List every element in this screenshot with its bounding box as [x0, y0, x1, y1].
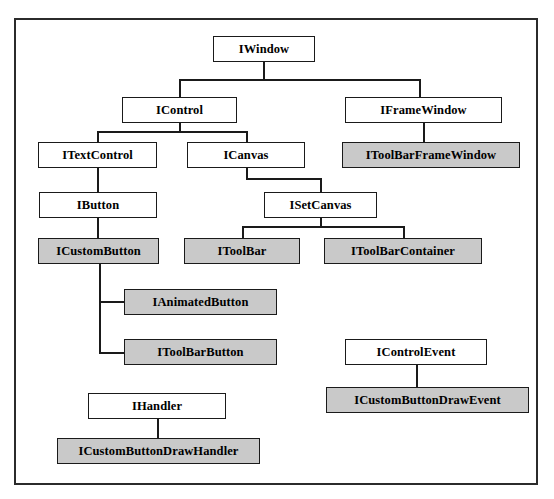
node-icontrol[interactable]: IControl	[122, 97, 237, 123]
connector-itextcontrol-drop	[97, 131, 99, 142]
node-icontrolevent[interactable]: IControlEvent	[345, 339, 487, 365]
connector-itoolbarbutton-stub	[99, 352, 124, 354]
connector-icanvas-stem	[246, 168, 248, 178]
connector-icontrol-drop	[179, 79, 181, 97]
node-itoolbarframewindow[interactable]: IToolBarFrameWindow	[342, 142, 520, 168]
connector-icontrolevent-stem	[416, 365, 418, 387]
connector-itoolbar-drop	[242, 226, 244, 238]
node-icustombuttondrawevent[interactable]: ICustomButtonDrawEvent	[326, 387, 529, 413]
connector-iframewindow-drop	[419, 79, 421, 97]
connector-icontrol-bus	[97, 131, 246, 133]
node-ibutton[interactable]: IButton	[39, 192, 157, 218]
connector-iwindow-bus	[179, 79, 419, 81]
connector-ianimated-stub	[99, 301, 124, 303]
node-iframewindow[interactable]: IFrameWindow	[345, 97, 502, 123]
connector-isetcanvas-bus	[242, 226, 403, 228]
node-iwindow[interactable]: IWindow	[213, 36, 315, 62]
connector-icontrol-stem	[179, 123, 181, 131]
connector-iframewindow-stem	[423, 123, 425, 142]
node-ihandler[interactable]: IHandler	[88, 393, 226, 419]
connector-icanvas-drop	[246, 131, 248, 142]
connector-iwindow-stem	[263, 62, 265, 79]
node-icustombutton[interactable]: ICustomButton	[38, 238, 159, 264]
node-icanvas[interactable]: ICanvas	[187, 142, 305, 168]
node-itoolbarbutton[interactable]: IToolBarButton	[124, 339, 277, 365]
node-itoolbar[interactable]: IToolBar	[184, 238, 300, 264]
node-ianimatedbutton[interactable]: IAnimatedButton	[124, 289, 277, 315]
connector-itextcontrol-stem	[97, 168, 99, 192]
node-icustombuttondrawhandler[interactable]: ICustomButtonDrawHandler	[57, 438, 260, 464]
connector-itoolbarcont-drop	[403, 226, 405, 238]
connector-ibutton-stem	[97, 218, 99, 238]
node-isetcanvas[interactable]: ISetCanvas	[264, 192, 377, 218]
diagram-frame: IWindowIControlIFrameWindowITextControlI…	[14, 18, 538, 485]
node-itextcontrol[interactable]: ITextControl	[38, 142, 157, 168]
connector-isetcanvas-drop	[320, 178, 322, 192]
connector-icanvas-jog	[246, 178, 321, 180]
connector-isetcanvas-stem	[320, 218, 322, 226]
connector-ihandler-stem	[157, 419, 159, 438]
connector-icustombutton-spine	[99, 264, 101, 352]
diagram-canvas: IWindowIControlIFrameWindowITextControlI…	[0, 0, 554, 499]
node-itoolbarcontainer[interactable]: IToolBarContainer	[324, 238, 482, 264]
